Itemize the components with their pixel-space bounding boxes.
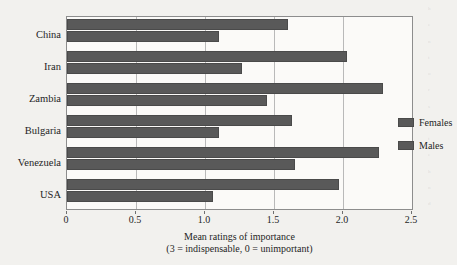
bar-china-males	[67, 31, 219, 42]
x-axis-tick-0: 0	[64, 214, 69, 225]
bar-iran-females	[67, 51, 347, 62]
x-axis-tick-labels: 00.51.01.52.02.5	[66, 211, 413, 229]
page-bleed-line: n	[428, 185, 444, 190]
x-axis-caption: Mean ratings of importance (3 = indispen…	[66, 231, 413, 254]
page-bleed-line: h	[428, 169, 444, 174]
y-axis-label-china: China	[1, 29, 61, 40]
bar-group	[67, 83, 412, 115]
bar-zambia-females	[67, 83, 383, 94]
page-bleed-line: s	[428, 104, 444, 109]
page-bleed-line: e	[428, 152, 444, 157]
page-bleed-line: r	[428, 87, 444, 92]
bar-usa-males	[67, 191, 213, 202]
page-bleed-line: d	[428, 201, 444, 206]
legend-swatch-females	[398, 118, 414, 127]
page-bleed-line: o	[428, 71, 444, 76]
page-bleed-line: t	[428, 136, 444, 141]
bar-usa-females	[67, 179, 339, 190]
y-axis-label-bulgaria: Bulgaria	[1, 125, 61, 136]
x-axis-tick-0.5: 0.5	[129, 214, 142, 225]
x-axis-caption-line2: (3 = indispensable, 0 = unimportant)	[66, 243, 413, 255]
x-axis-tick-1.0: 1.0	[198, 214, 211, 225]
bar-group	[67, 19, 412, 51]
legend-swatch-males	[398, 141, 414, 150]
bar-series-container	[67, 17, 412, 209]
y-axis-label-zambia: Zambia	[1, 93, 61, 104]
y-axis-label-usa: USA	[1, 189, 61, 200]
bar-iran-males	[67, 63, 242, 74]
bar-venezuela-males	[67, 159, 295, 170]
bar-bulgaria-males	[67, 127, 219, 138]
page-bleed-line: i	[428, 120, 444, 125]
y-axis-label-venezuela: Venezuela	[1, 157, 61, 168]
x-axis-tick-2.0: 2.0	[336, 214, 349, 225]
y-axis-label-iran: Iran	[1, 61, 61, 72]
bar-china-females	[67, 19, 288, 30]
bar-group	[67, 147, 412, 179]
x-axis-tick-2.5: 2.5	[405, 214, 418, 225]
bar-zambia-males	[67, 95, 267, 106]
page-bleed-line: h	[428, 6, 444, 11]
bar-bulgaria-females	[67, 115, 292, 126]
page-margin-bleed-text: hentorsitehnd	[428, 6, 444, 206]
bar-group	[67, 179, 412, 211]
plot-area: Females Males	[66, 16, 413, 210]
x-axis-tick-1.5: 1.5	[267, 214, 280, 225]
bar-group	[67, 51, 412, 83]
y-axis-category-labels: ChinaIranZambiaBulgariaVenezuelaUSA	[0, 16, 66, 210]
x-axis-caption-line1: Mean ratings of importance	[66, 231, 413, 243]
page-bleed-line: e	[428, 22, 444, 27]
page-bleed-line: n	[428, 39, 444, 44]
bar-group	[67, 115, 412, 147]
page-bleed-line: t	[428, 55, 444, 60]
bar-venezuela-females	[67, 147, 379, 158]
